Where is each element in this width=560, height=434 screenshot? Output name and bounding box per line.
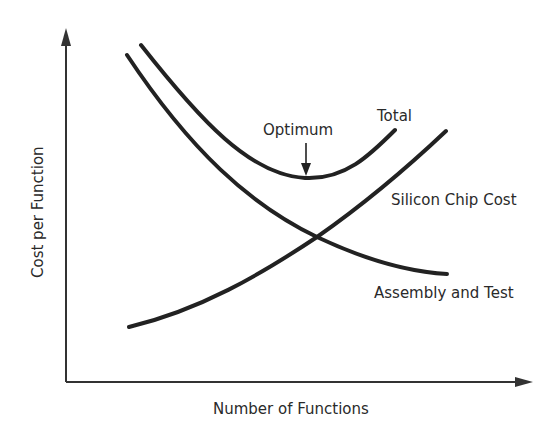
- x-axis-arrow-icon: [515, 377, 533, 387]
- total-label: Total: [376, 107, 412, 125]
- x-axis-label: Number of Functions: [213, 400, 369, 418]
- y-axis-arrow-icon: [61, 28, 71, 46]
- y-axis-label: Cost per Function: [29, 146, 47, 278]
- optimum-arrowhead-icon: [301, 163, 311, 176]
- assembly-label: Assembly and Test: [374, 284, 514, 302]
- optimum-label: Optimum: [263, 121, 333, 139]
- silicon-label: Silicon Chip Cost: [391, 191, 517, 209]
- cost-chart: Optimum Total Silicon Chip Cost Assembly…: [0, 0, 560, 434]
- total-curve: [141, 45, 395, 178]
